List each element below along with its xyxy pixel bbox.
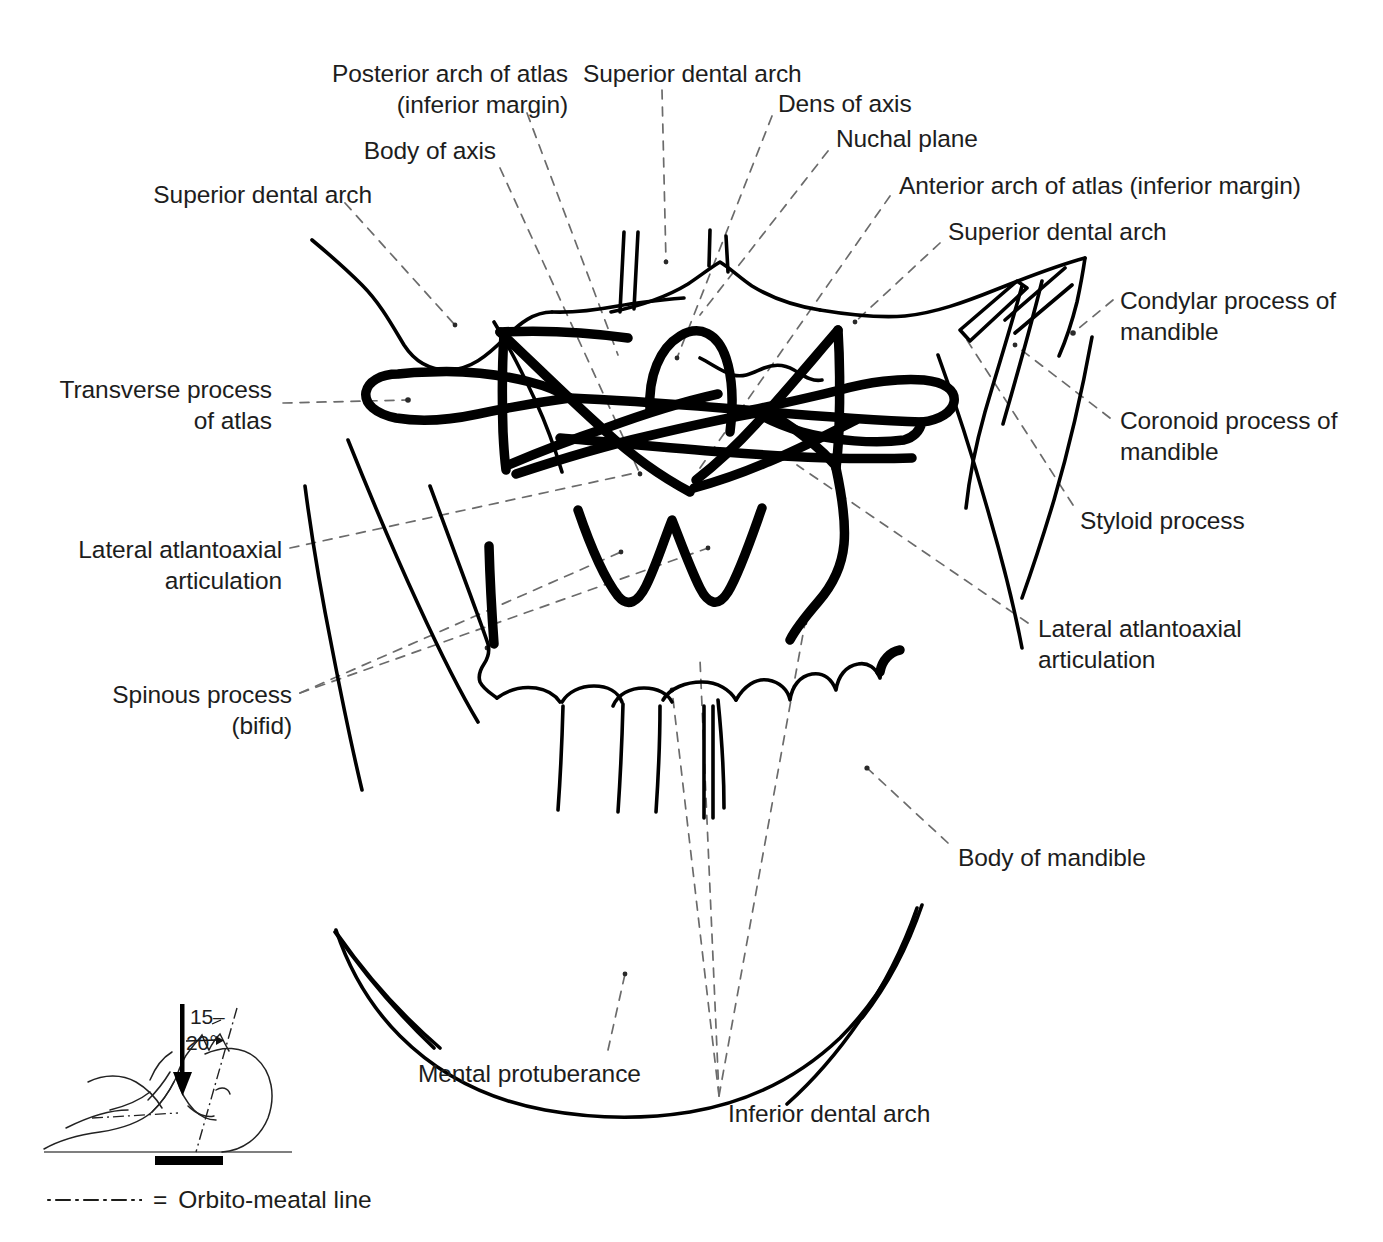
lateral-mass-right-descender	[790, 468, 845, 640]
label-inferior-dental-arch: Inferior dental arch	[728, 1098, 930, 1129]
label-spinous-process: Spinous process (bifid)	[20, 679, 292, 741]
superior-dental-arch-outline	[611, 262, 820, 312]
alveolar-ridge-thick-left	[489, 546, 494, 644]
legend-equals: =	[153, 1186, 167, 1214]
label-superior-dental-arch-top: Superior dental arch	[583, 58, 802, 89]
anatomy-thick-strokes	[366, 330, 954, 672]
patient-ear	[216, 1088, 230, 1094]
dot-body-of-axis	[638, 472, 643, 477]
label-dens-of-axis: Dens of axis	[778, 88, 912, 119]
legend-text: Orbito-meatal line	[178, 1186, 371, 1214]
label-superior-dental-arch-right: Superior dental arch	[948, 216, 1167, 247]
dot-spinous-process-b	[706, 546, 711, 551]
dot-superior-dental-arch-left	[453, 323, 458, 328]
leader-lateral-atlantoaxial-right	[797, 465, 1028, 623]
label-condylar-process: Condylar process of mandible	[1120, 285, 1336, 347]
leader-spinous-process-b	[300, 548, 708, 693]
leader-posterior-arch-of-atlas	[527, 113, 618, 355]
label-styloid-process: Styloid process	[1080, 505, 1245, 536]
label-lateral-atlantoaxial-right: Lateral atlantoaxial articulation	[1038, 613, 1242, 675]
leader-transverse-process	[283, 400, 408, 403]
patient-arm	[66, 1110, 128, 1128]
dot-coronoid-process	[1013, 343, 1018, 348]
leader-coronoid-process	[1015, 345, 1110, 418]
label-coronoid-process: Coronoid process of mandible	[1120, 405, 1337, 467]
tooth-2-right	[618, 704, 623, 812]
label-body-of-axis: Body of axis	[180, 135, 496, 166]
tooth-2-left	[562, 686, 622, 702]
label-lateral-atlantoaxial-left: Lateral atlantoaxial articulation	[20, 534, 282, 596]
styloid-process-line	[1022, 337, 1092, 598]
patient-shoulder	[88, 1076, 162, 1108]
tooth-3-right	[656, 706, 660, 812]
label-body-of-mandible: Body of mandible	[958, 842, 1146, 873]
leader-superior-dental-arch-top	[662, 90, 666, 262]
anatomy-thin-strokes	[305, 230, 1092, 1117]
tooth-4-left	[663, 682, 736, 700]
atlas-lateral-strut-right	[836, 330, 840, 468]
cassette-bar	[155, 1156, 223, 1165]
atlas-lateral-strut-left	[502, 334, 506, 470]
shoulder-curve-right	[787, 908, 917, 1104]
leader-body-of-mandible	[867, 768, 948, 843]
angle-label-top: 15	[190, 1006, 213, 1028]
patient-neck-lower	[110, 1092, 150, 1110]
shoulder-curve-left	[338, 935, 440, 1048]
tooth-1	[558, 706, 563, 810]
patient-torso	[44, 1078, 176, 1149]
orbito-meatal-line-symbol	[46, 1193, 142, 1207]
dot-spinous-process-a	[619, 550, 624, 555]
posterior-arch-of-atlas	[500, 331, 628, 338]
incisor-line-2	[634, 232, 638, 309]
patient-occiput	[205, 1048, 272, 1152]
angle-label-top-dash: –	[213, 1006, 225, 1028]
ramus-posterior-border-left	[305, 486, 362, 790]
occiput-outline-right	[1059, 258, 1085, 356]
leader-superior-dental-arch-right	[855, 243, 940, 322]
orbito-meatal-reference-line	[196, 1008, 237, 1152]
legend: = Orbito-meatal line	[46, 1186, 372, 1214]
leader-nuchal-plane	[700, 151, 828, 315]
label-nuchal-plane: Nuchal plane	[836, 123, 978, 154]
dot-body-of-mandible	[864, 765, 869, 770]
positioning-diagram	[44, 1004, 292, 1165]
leader-mental-protuberance	[608, 974, 625, 1050]
angle-label-bottom: 20°	[186, 1032, 217, 1054]
incisor-line-3	[709, 230, 710, 266]
leader-superior-dental-arch-left	[345, 203, 455, 325]
label-superior-dental-arch-left: Superior dental arch	[20, 179, 372, 210]
figure-page: Superior dental arch Body of axis Poster…	[0, 0, 1383, 1242]
alveolar-ridge-thick-right	[880, 650, 900, 672]
leader-condylar-process	[1073, 300, 1113, 333]
dot-transverse-process	[405, 397, 411, 403]
dot-superior-dental-arch-right	[853, 320, 858, 325]
tooth-6	[718, 700, 724, 808]
label-transverse-process: Transverse process of atlas	[20, 374, 272, 436]
alveolar-border-left	[497, 687, 560, 702]
label-anterior-arch-of-atlas: Anterior arch of atlas (inferior margin)	[899, 170, 1301, 201]
label-posterior-arch-of-atlas: Posterior arch of atlas (inferior margin…	[180, 58, 568, 120]
ramus-anterior-border-left	[348, 440, 478, 722]
dot-dens-of-axis	[675, 356, 680, 361]
incisor-line-1	[620, 232, 624, 312]
patient-chin	[150, 1052, 172, 1080]
alveolar-border-right	[736, 650, 900, 700]
spinous-process-bifid	[578, 508, 762, 602]
dot-superior-dental-arch-top	[664, 260, 669, 265]
incisor-line-4	[726, 236, 728, 272]
label-mental-protuberance: Mental protuberance	[418, 1058, 641, 1089]
dot-mental-protuberance	[623, 972, 628, 977]
dot-condylar-process	[1070, 330, 1076, 336]
